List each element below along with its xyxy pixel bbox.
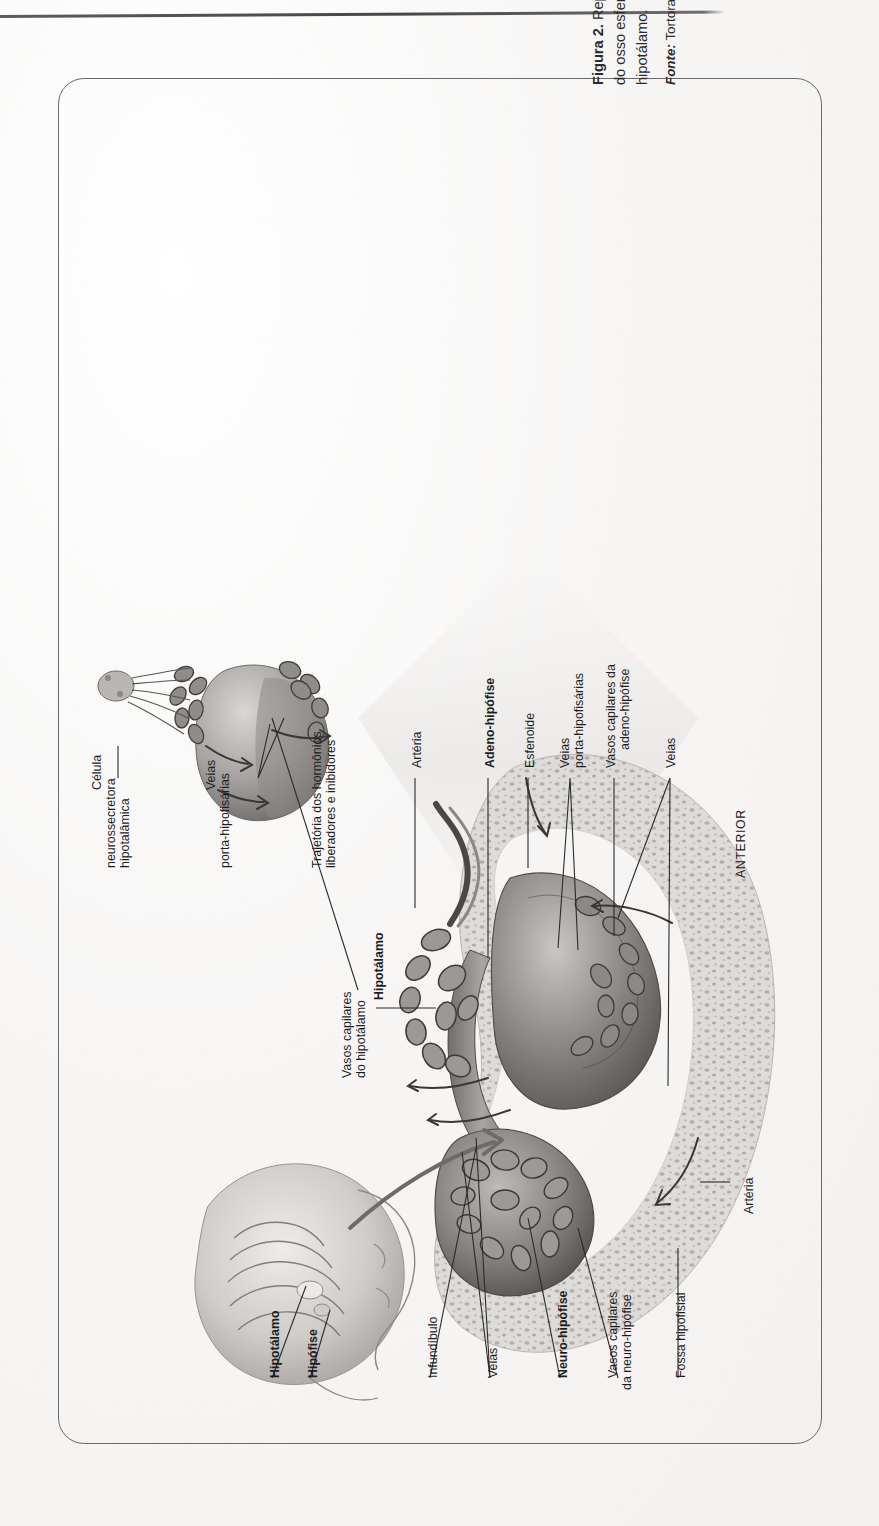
label-hipotalamo-inferior: Hipotálamo <box>268 1311 283 1378</box>
label-line: do hipotálamo <box>354 1000 368 1078</box>
label-line: Fossa hipofisial <box>674 1293 688 1378</box>
label-arteria-inferior: Artéria <box>742 1178 757 1215</box>
label-line: Infundíbulo <box>426 1317 440 1378</box>
label-line: Esfenoide <box>523 713 537 768</box>
label-celula-neurossecretora-l3: hipotalâmica <box>118 798 132 868</box>
label-veias-porta-hipofisarias-inset-l2: porta-hipofisárias <box>218 773 233 868</box>
label-vasos-capilares-hipotalamo: Vasos capilares <box>340 991 355 1078</box>
label-vasos-capilares-adeno-l2: adeno-hipófise <box>618 669 633 750</box>
label-line: Vasos capilares da <box>604 664 618 768</box>
label-line: porta-hipofisárias <box>218 773 232 868</box>
label-line: Artéria <box>410 732 424 769</box>
figure-caption: Figura 2. Representação da glândula hipó… <box>587 0 681 85</box>
label-line: Vasos capilares <box>606 1291 620 1378</box>
figure-illustration: Célula neurossecretora hipotalâmica Veia… <box>58 78 820 1442</box>
figure-source-prefix: Fonte: <box>663 44 678 85</box>
label-veias-porta-hipofisarias-l2: porta-hipofisárias <box>572 673 587 768</box>
label-line: porta-hipofisárias <box>572 673 586 768</box>
label-veias-porta-hipofisarias-inset: Veias <box>204 760 219 790</box>
label-esfenoide: Esfenoide <box>523 713 538 768</box>
illustration-artwork <box>58 78 820 1442</box>
label-line: Artéria <box>742 1178 756 1215</box>
label-vasos-capilares-neuro: Vasos capilares <box>606 1291 621 1378</box>
figure-source: Fonte: Tortora e Derrickson (2017, p. 32… <box>661 0 681 85</box>
label-line: Adeno-hipófise <box>483 678 497 768</box>
figure-source-text: Tortora e Derrickson (2017, p. 328). <box>663 0 678 44</box>
label-line: hipotalâmica <box>118 798 132 868</box>
label-line: Vasos capilares <box>340 991 354 1078</box>
scanned-page: Célula neurossecretora hipotalâmica Veia… <box>0 0 879 1526</box>
label-veias-porta-hipofisarias: Veias <box>558 738 573 768</box>
label-infundibulo: Infundíbulo <box>426 1317 441 1378</box>
label-fossa-hipofisial: Fossa hipofisial <box>674 1293 689 1378</box>
label-anterior: ANTERIOR <box>734 809 749 878</box>
figure-caption-block: Figura 2. Representação da glândula hipó… <box>587 0 697 85</box>
label-line: da neuro-hipófise <box>620 1294 634 1390</box>
label-line: Trajetória dos hormônios <box>310 731 324 868</box>
label-line: Hipófise <box>306 1329 320 1378</box>
label-trajetoria-hormonios-l2: liberadores e inibidores <box>324 740 339 868</box>
label-adeno-hipofise: Adeno-hipófise <box>483 678 498 768</box>
label-line: Hipotálamo <box>268 1311 282 1378</box>
label-veias-inferior: Veias <box>486 1348 501 1378</box>
label-line: Neuro-hipófise <box>556 1291 570 1378</box>
label-line: neurossecretora <box>104 778 118 868</box>
label-veias-direita: Veias <box>664 738 679 768</box>
label-vasos-capilares-hipotalamo-l2: do hipotálamo <box>354 1000 369 1078</box>
running-head <box>120 0 640 11</box>
label-trajetoria-hormonios: Trajetória dos hormônios <box>310 731 325 868</box>
label-line: Veias <box>486 1348 500 1378</box>
label-neuro-hipofise: Neuro-hipófise <box>556 1291 571 1378</box>
figure-caption-prefix: Figura 2. <box>590 24 606 85</box>
label-hipotalamo-central: Hipotálamo <box>372 933 387 1000</box>
label-line: Veias <box>664 738 678 768</box>
label-celula-neurossecretora: Célula <box>90 755 104 790</box>
label-vasos-capilares-adeno: Vasos capilares da <box>604 664 619 768</box>
label-line: Célula <box>90 755 104 790</box>
label-celula-neurossecretora-l2: neurossecretora <box>104 778 118 868</box>
label-arteria-superior: Artéria <box>410 732 425 769</box>
label-vasos-capilares-neuro-l2: da neuro-hipófise <box>620 1294 635 1390</box>
label-line: ANTERIOR <box>734 809 748 878</box>
label-line: liberadores e inibidores <box>324 740 338 868</box>
label-line: Veias <box>204 760 218 790</box>
label-line: Veias <box>558 738 572 768</box>
label-line: adeno-hipófise <box>618 669 632 750</box>
label-hipofise-inferior: Hipófise <box>306 1329 321 1378</box>
label-line: Hipotálamo <box>372 933 386 1000</box>
